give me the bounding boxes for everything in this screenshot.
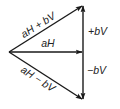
vector-diagram-canvas: aH + bV aH aH − bV +bV −bV: [0, 0, 120, 109]
label-plus-bv: +bV: [88, 25, 108, 37]
label-ah: aH: [41, 37, 55, 49]
label-diff: aH − bV: [19, 63, 58, 94]
vector-diagram: aH + bV aH aH − bV +bV −bV: [0, 0, 120, 109]
label-minus-bv: −bV: [87, 64, 107, 76]
